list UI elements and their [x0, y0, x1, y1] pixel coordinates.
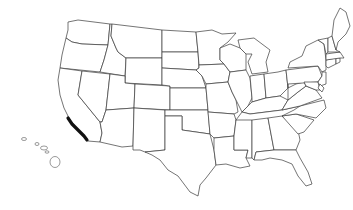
island-hi-5: [50, 157, 60, 168]
state-fl: [254, 150, 312, 186]
state-ar: [208, 112, 236, 138]
state-oh: [264, 70, 288, 98]
state-ma: [326, 52, 344, 60]
state-wa: [66, 20, 110, 45]
states-layer: [58, 8, 350, 196]
state-az: [100, 108, 134, 147]
state-ks: [170, 88, 208, 110]
state-nm: [133, 108, 165, 152]
state-sd: [162, 52, 199, 70]
state-co: [134, 84, 170, 110]
island-hi-1: [22, 138, 27, 141]
state-nd: [162, 30, 198, 52]
state-ri: [336, 58, 340, 64]
state-me: [332, 8, 350, 50]
state-in: [250, 74, 266, 102]
hawaii-islands: [22, 138, 61, 168]
state-wy: [125, 58, 162, 85]
island-hi-4: [45, 151, 49, 153]
island-hi-2: [35, 143, 39, 146]
state-mt: [111, 24, 162, 58]
us-outline-map: [0, 0, 353, 210]
island-hi-3: [41, 146, 48, 150]
